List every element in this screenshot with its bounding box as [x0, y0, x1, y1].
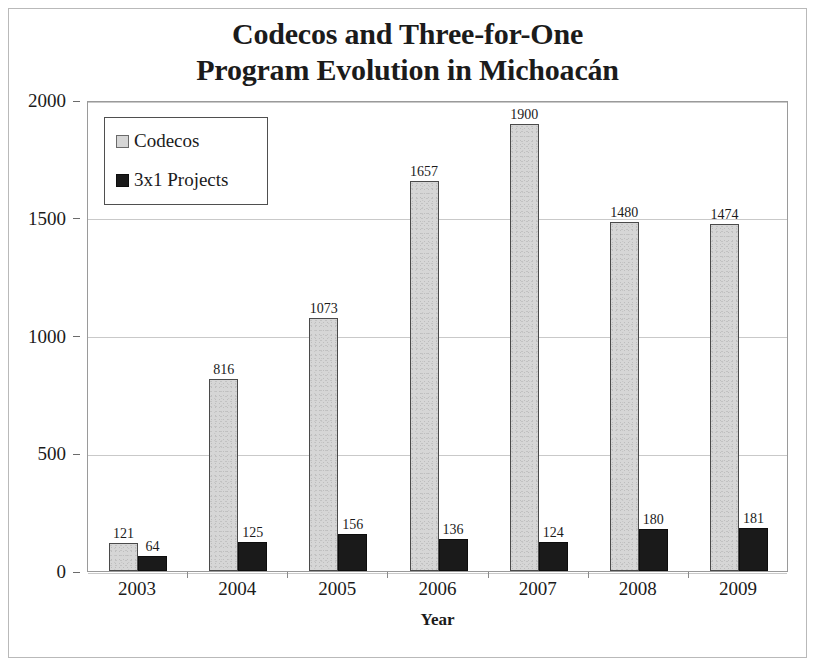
bar-value-label: 1657 [410, 164, 438, 180]
x-tick-mark [488, 572, 489, 578]
y-tick-label: 1500 [28, 208, 66, 230]
legend-swatch-projects-icon [116, 174, 129, 187]
bar-value-label: 1900 [510, 107, 538, 123]
chart-title-line-2: Program Evolution in Michoacán [8, 52, 807, 88]
bar-value-label: 181 [743, 511, 764, 527]
x-tick-mark [688, 572, 689, 578]
y-tick-mark [73, 101, 80, 102]
y-tick-mark [73, 454, 80, 455]
x-tick-mark [287, 572, 288, 578]
y-tick-mark [73, 218, 80, 219]
legend-label-projects: 3x1 Projects [134, 169, 228, 191]
bar-projects-2005 [338, 534, 367, 571]
bar-projects-2006 [439, 539, 468, 571]
bar-value-label: 156 [342, 517, 363, 533]
legend-label-codecos: Codecos [134, 130, 199, 152]
x-tick-label: 2007 [519, 578, 557, 600]
chart-figure: Codecos and Three-for-One Program Evolut… [0, 0, 815, 665]
x-axis: 2003200420052006200720082009 [87, 578, 788, 608]
bar-value-label: 121 [113, 526, 134, 542]
x-tick-label: 2008 [619, 578, 657, 600]
bar-projects-2009 [739, 528, 768, 571]
y-tick-label: 2000 [28, 90, 66, 112]
bar-value-label: 816 [213, 362, 234, 378]
bar-codecos-2003 [109, 543, 138, 571]
x-axis-title: Year [87, 610, 788, 630]
y-axis: 0500100015002000 [0, 101, 80, 572]
y-tick-label: 500 [38, 443, 67, 465]
legend-swatch-codecos-icon [116, 135, 129, 148]
bar-codecos-2007 [510, 124, 539, 571]
y-tick-mark [73, 336, 80, 337]
bar-value-label: 64 [146, 539, 160, 555]
bar-value-label: 1480 [610, 205, 638, 221]
x-tick-label: 2005 [318, 578, 356, 600]
x-tick-label: 2004 [218, 578, 256, 600]
bar-value-label: 1073 [310, 301, 338, 317]
bar-codecos-2006 [410, 181, 439, 571]
chart-title-line-1: Codecos and Three-for-One [8, 16, 807, 52]
gridline [88, 102, 787, 103]
x-tick-mark [187, 572, 188, 578]
bar-codecos-2008 [610, 222, 639, 571]
bar-value-label: 136 [443, 522, 464, 538]
x-tick-label: 2003 [118, 578, 156, 600]
x-tick-mark [588, 572, 589, 578]
bar-projects-2004 [238, 542, 267, 571]
bar-codecos-2005 [309, 318, 338, 571]
bar-value-label: 125 [242, 525, 263, 541]
y-tick-mark [73, 572, 80, 573]
chart-title: Codecos and Three-for-One Program Evolut… [8, 16, 807, 88]
x-tick-mark [387, 572, 388, 578]
y-tick-label: 1000 [28, 326, 66, 348]
legend-entry-projects: 3x1 Projects [116, 169, 228, 191]
x-tick-label: 2006 [419, 578, 457, 600]
bar-value-label: 1474 [710, 207, 738, 223]
bar-projects-2007 [539, 542, 568, 571]
gridline [88, 573, 787, 574]
bar-codecos-2004 [209, 379, 238, 571]
bar-value-label: 124 [543, 525, 564, 541]
bar-projects-2003 [138, 556, 167, 571]
y-tick-label: 0 [57, 561, 67, 583]
x-tick-label: 2009 [719, 578, 757, 600]
legend-entry-codecos: Codecos [116, 130, 199, 152]
bar-projects-2008 [639, 529, 668, 571]
bar-value-label: 180 [643, 512, 664, 528]
bar-codecos-2009 [710, 224, 739, 571]
chart-legend: Codecos 3x1 Projects [104, 117, 268, 205]
